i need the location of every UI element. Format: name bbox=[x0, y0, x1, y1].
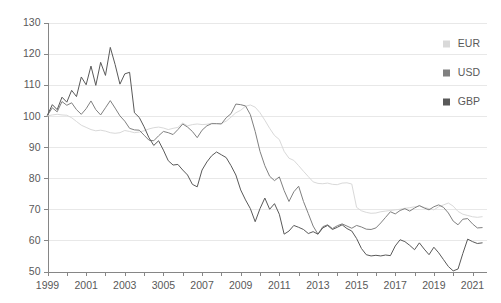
x-axis-tick-labels: 1999200120033005200720092011201320152017… bbox=[36, 279, 485, 291]
y-tick-label: 60 bbox=[29, 234, 41, 246]
y-tick-label: 90 bbox=[29, 141, 41, 153]
x-tick-label: 2019 bbox=[422, 279, 446, 291]
y-tick-label: 130 bbox=[23, 16, 41, 28]
legend-swatch-gbp bbox=[443, 99, 450, 106]
legend-label-gbp: GBP bbox=[458, 95, 480, 107]
chart-legend: EURUSDGBP bbox=[443, 37, 480, 107]
series-line-gbp bbox=[48, 47, 483, 270]
line-chart: 5060708090100110120130 19992001200330052… bbox=[0, 0, 501, 303]
x-tick-label: 2007 bbox=[190, 279, 214, 291]
x-tick-label: 2001 bbox=[74, 279, 98, 291]
y-tick-label: 120 bbox=[23, 47, 41, 59]
x-tick-label: 2021 bbox=[461, 279, 485, 291]
legend-label-eur: EUR bbox=[458, 37, 481, 49]
y-tick-label: 110 bbox=[24, 78, 41, 90]
x-tick-label: 1999 bbox=[36, 279, 60, 291]
legend-swatch-usd bbox=[443, 70, 450, 77]
legend-swatch-eur bbox=[443, 41, 450, 48]
data-series bbox=[48, 47, 483, 270]
x-tick-label: 2011 bbox=[268, 279, 291, 291]
x-tick-label: 2017 bbox=[384, 279, 408, 291]
y-tick-label: 100 bbox=[23, 110, 41, 122]
x-tick-label: 2009 bbox=[229, 279, 253, 291]
y-axis-tick-labels: 5060708090100110120130 bbox=[23, 16, 41, 277]
y-tick-label: 80 bbox=[29, 172, 41, 184]
y-tick-label: 70 bbox=[29, 203, 41, 215]
gridlines bbox=[48, 24, 488, 273]
legend-label-usd: USD bbox=[458, 66, 481, 78]
x-tick-label: 2015 bbox=[345, 279, 369, 291]
x-tick-label: 2013 bbox=[306, 279, 330, 291]
x-tick-label: 2003 bbox=[113, 279, 137, 291]
x-tick-label: 3005 bbox=[152, 279, 176, 291]
y-tick-label: 50 bbox=[29, 265, 41, 277]
chart-container: 5060708090100110120130 19992001200330052… bbox=[0, 0, 501, 303]
series-line-eur bbox=[48, 105, 483, 217]
